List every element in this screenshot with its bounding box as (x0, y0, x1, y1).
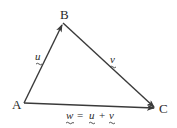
vertex-label-b: B (60, 7, 69, 22)
equation-plus: + (99, 109, 105, 121)
vertex-label-a: A (12, 97, 22, 112)
vector-v-label: v (110, 53, 115, 65)
equation-w-tilde (66, 122, 74, 124)
vector-u-label: u (35, 50, 41, 62)
equation-u: u (89, 109, 95, 121)
vector-w-arrow (24, 103, 154, 108)
equation-v: v (109, 109, 114, 121)
vector-u-arrow (24, 25, 62, 103)
vertex-label-c: C (159, 101, 168, 116)
vector-v-arrow (63, 23, 154, 107)
equation-v-tilde (109, 122, 115, 124)
equation-w-equals-u-plus-v: w = u + v (66, 109, 115, 124)
equation-u-tilde (89, 122, 95, 124)
equation-w: w (66, 109, 74, 121)
vector-triangle-diagram: B A C u v w = u + v (0, 0, 177, 128)
vector-u-tilde (36, 63, 42, 65)
equation-equals: = (77, 109, 83, 121)
